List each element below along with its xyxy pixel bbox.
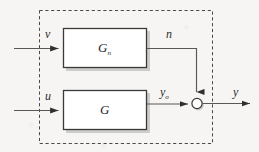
block-g-label-text: G <box>100 102 109 117</box>
signal-label-u: u <box>45 90 51 102</box>
wire-gn-to-sum <box>147 49 197 93</box>
signal-label-u-text: u <box>45 89 51 103</box>
signal-label-n: n <box>166 28 172 40</box>
signal-label-y0: yo <box>160 86 169 98</box>
block-gn-label-text: G <box>98 40 107 55</box>
signal-label-y: y <box>233 86 238 98</box>
diagram-canvas <box>0 0 259 152</box>
signal-label-y-text: y <box>233 85 238 99</box>
signal-label-v: v <box>45 28 50 40</box>
block-g-label: G <box>100 103 109 116</box>
signal-label-y0-subscript: o <box>165 93 169 101</box>
summing-junction <box>192 98 202 108</box>
block-gn-label-subscript: n <box>107 49 111 57</box>
block-gn-label: Gn <box>98 41 111 54</box>
signal-label-n-text: n <box>166 27 172 41</box>
block-diagram-figure: Gn G v u n yo y <box>0 0 259 152</box>
signal-label-v-text: v <box>45 27 50 41</box>
